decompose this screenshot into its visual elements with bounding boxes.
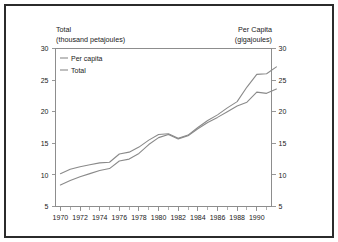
right-axis-units: (gigajoules) [235,35,272,44]
y-tick-label-left: 10 [41,172,49,179]
x-tick-label: 1976 [112,214,128,221]
left-axis-title: Total [56,25,72,34]
y-axis-left-ticks: 51015202530 [41,45,56,210]
chart-legend: Per capita Total [60,55,103,74]
series-line-total [60,89,276,185]
legend-label-total: Total [71,67,86,74]
x-tick-label: 1988 [229,214,245,221]
series-lines [60,67,276,185]
legend-label-per-capita: Per capita [71,55,103,63]
x-tick-label: 1970 [53,214,69,221]
y-tick-label-right: 20 [279,108,287,115]
y-tick-label-left: 5 [45,203,49,210]
x-tick-label: 1984 [190,214,206,221]
y-tick-label-right: 25 [279,77,287,84]
y-tick-label-right: 5 [279,203,283,210]
plot-area-wrapper: Total (thousand petajoules) Per Capita (… [0,0,338,242]
x-tick-label: 1972 [72,214,88,221]
y-tick-label-left: 25 [41,77,49,84]
y-tick-label-right: 30 [279,45,287,52]
left-axis-units: (thousand petajoules) [56,35,125,44]
x-tick-label: 1978 [131,214,147,221]
chart-figure: Total (thousand petajoules) Per Capita (… [0,0,338,242]
x-tick-label: 1980 [151,214,167,221]
x-tick-label: 1974 [92,214,108,221]
y-tick-label-left: 20 [41,108,49,115]
right-axis-title: Per Capita [238,25,272,34]
series-line-per-capita [60,67,276,174]
line-chart: Total (thousand petajoules) Per Capita (… [0,0,338,242]
x-axis-ticks: 1970197219741976197819801982198419861988… [53,207,267,221]
y-tick-label-right: 10 [279,172,287,179]
x-tick-label: 1982 [170,214,186,221]
y-tick-label-left: 15 [41,140,49,147]
y-tick-label-right: 15 [279,140,287,147]
x-tick-label: 1990 [249,214,265,221]
x-tick-label: 1986 [210,214,226,221]
y-tick-label-left: 30 [41,45,49,52]
y-axis-right-ticks: 51015202530 [272,45,287,210]
